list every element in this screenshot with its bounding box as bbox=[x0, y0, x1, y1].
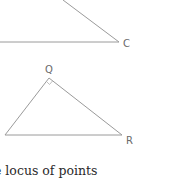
vertex-label-c: C bbox=[123, 38, 130, 49]
side-to-c bbox=[63, 0, 119, 42]
body-text-partial: e locus of points bbox=[0, 163, 97, 178]
triangle-pqr: Q R bbox=[5, 64, 133, 146]
vertex-label-q: Q bbox=[45, 64, 53, 75]
geometry-figure: C Q R bbox=[0, 0, 170, 183]
vertex-label-r: R bbox=[126, 135, 133, 146]
side-qr bbox=[49, 78, 122, 135]
side-pq bbox=[5, 78, 49, 135]
right-angle-marker-icon bbox=[47, 81, 53, 85]
triangle-top-fragment: C bbox=[0, 0, 130, 49]
